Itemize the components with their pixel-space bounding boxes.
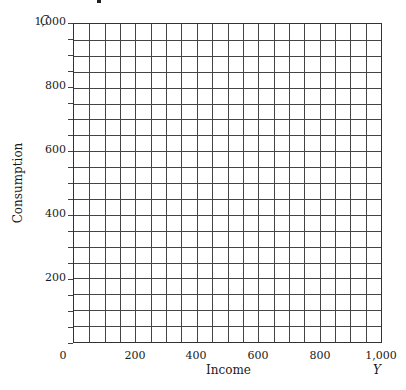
- y-tick-label: 400: [26, 207, 66, 220]
- x-tick-label: 1,000: [361, 349, 401, 362]
- grid-horizontal-line: [74, 151, 381, 152]
- grid-horizontal-line: [74, 231, 381, 232]
- grid-horizontal-line: [74, 278, 381, 279]
- y-tick-label: 1,000: [26, 15, 66, 28]
- grid-horizontal-line: [74, 247, 381, 248]
- y-tick-label: 200: [26, 271, 66, 284]
- y-axis-title: Consumption: [11, 143, 25, 224]
- grid-horizontal-line: [74, 56, 381, 57]
- y-tick-label: 600: [26, 143, 66, 156]
- grid-horizontal-line: [74, 135, 381, 136]
- grid-horizontal-line: [74, 119, 381, 120]
- x-axis-symbol: Y: [373, 363, 381, 377]
- x-axis-title: Income: [206, 363, 251, 377]
- grid-horizontal-line: [74, 263, 381, 264]
- grid-horizontal-line: [74, 88, 381, 89]
- cropped-heading-fragment: [97, 0, 101, 3]
- grid-horizontal-line: [74, 167, 381, 168]
- x-tick-label: 400: [176, 349, 216, 362]
- grid-horizontal-line: [74, 104, 381, 105]
- y-tick-mark: [68, 343, 73, 344]
- grid-horizontal-line: [74, 310, 381, 311]
- chart-grid: [73, 23, 382, 343]
- grid-horizontal-line: [74, 326, 381, 327]
- x-tick-label: 0: [43, 349, 83, 362]
- x-tick-label: 200: [115, 349, 155, 362]
- grid-horizontal-line: [74, 199, 381, 200]
- y-tick-label: 800: [26, 79, 66, 92]
- grid-horizontal-line: [74, 215, 381, 216]
- x-tick-label: 800: [300, 349, 340, 362]
- grid-horizontal-line: [74, 183, 381, 184]
- grid-horizontal-line: [74, 72, 381, 73]
- x-tick-label: 600: [238, 349, 278, 362]
- grid-horizontal-line: [74, 294, 381, 295]
- grid-horizontal-line: [74, 40, 381, 41]
